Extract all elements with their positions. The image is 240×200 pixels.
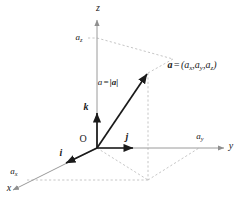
dash-az-to-top-corner <box>97 38 173 59</box>
origin-label: O <box>79 134 86 144</box>
vector-diagram-figure: z y x az ay ax O k j i a = |a| a = (ax,a… <box>0 0 240 200</box>
components-close: ) <box>213 59 216 70</box>
magnitude-rhs: |a| <box>110 77 118 87</box>
axis-lines <box>13 20 224 190</box>
z-axis-label: z <box>96 3 100 13</box>
dash-base-right-edge <box>148 148 199 180</box>
y-tick-sub: y <box>201 135 204 142</box>
z-tick-sub: z <box>80 36 82 43</box>
components-equals: = <box>173 59 180 70</box>
vector-a-name: a <box>167 59 172 70</box>
magnitude-equals: = <box>103 77 109 87</box>
unit-vector-i-label: i <box>60 148 63 158</box>
dash-base-left-edge <box>97 148 148 180</box>
unit-vector-i-arrow <box>66 148 97 163</box>
magnitude-lhs: a <box>98 77 103 87</box>
unit-vector-k-label: k <box>84 102 89 112</box>
vector-a-components-label: a = (ax,ay,az) <box>167 60 216 72</box>
z-axis-tick-label: az <box>76 33 83 43</box>
x-axis-tick-label: ax <box>10 167 17 177</box>
y-axis-tick-label: ay <box>196 132 203 142</box>
unit-vector-j-label: j <box>126 132 129 142</box>
coordinate-system-svg <box>0 0 240 200</box>
vector-magnitude-label: a = |a| <box>98 78 119 87</box>
x-tick-sub: x <box>15 170 18 177</box>
y-axis-label: y <box>229 141 233 151</box>
x-axis-label: x <box>7 183 11 193</box>
